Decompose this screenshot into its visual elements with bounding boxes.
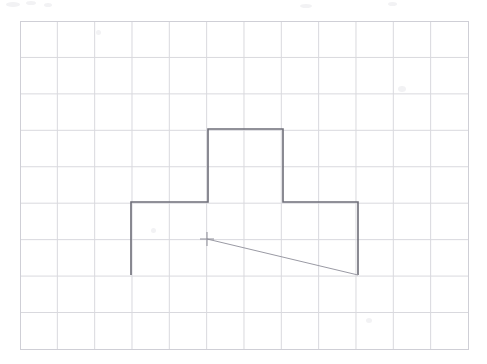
- drawing-surface[interactable]: [0, 0, 487, 364]
- graph-paper-canvas: [0, 0, 487, 364]
